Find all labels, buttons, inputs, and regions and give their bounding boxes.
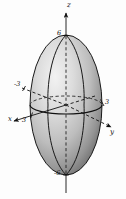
z-axis-label: z [67, 2, 71, 9]
tick-label-z-positive: 6 [57, 30, 61, 37]
tick-label-y-positive: 3 [105, 99, 109, 106]
x-axis-label: x [8, 116, 12, 123]
tick-label-y-negative: -3 [14, 81, 20, 88]
ellipsoid-figure: z x y 6 -6 3 3 -3 [0, 0, 126, 199]
tick-label-x-positive: 3 [22, 117, 26, 124]
tick-label-z-negative: -6 [54, 170, 60, 177]
y-axis-label: y [110, 129, 114, 136]
